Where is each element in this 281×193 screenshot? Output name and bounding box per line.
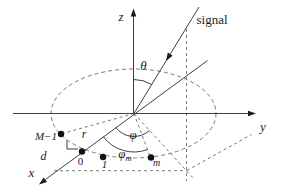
element-m-label: m	[153, 158, 160, 168]
radius-line	[63, 114, 135, 134]
element-M-1-label: M−1	[35, 131, 57, 142]
x-axis-label: x	[29, 166, 35, 179]
x-axis-arrowhead	[39, 178, 47, 185]
y-axis-arrowhead	[248, 111, 256, 117]
phi-m-angle-label: φm	[118, 146, 131, 159]
array-signal-diagram: z signal θ y x φ φm r d M−1 0 1 m	[0, 0, 281, 193]
spacing-label: d	[41, 150, 47, 162]
element-dot-M-1	[58, 131, 64, 137]
phi-m-subscript: m	[126, 153, 132, 163]
signal-label: signal	[196, 13, 227, 26]
azimuth-projection-line	[134, 114, 194, 180]
element-0-label: 0	[78, 155, 84, 166]
z-axis-arrowhead	[131, 9, 137, 17]
element-1-label: 1	[102, 159, 108, 170]
y-axis-label: y	[260, 120, 266, 133]
y-projection-line	[187, 135, 252, 171]
radius-label: r	[82, 128, 87, 140]
signal-arrowhead	[166, 53, 173, 61]
phi-angle-label: φ	[129, 128, 136, 141]
theta-arc	[134, 79, 152, 84]
z-axis-label: z	[118, 10, 123, 23]
diagram-geometry	[0, 0, 281, 193]
theta-angle-label: θ	[140, 59, 146, 72]
